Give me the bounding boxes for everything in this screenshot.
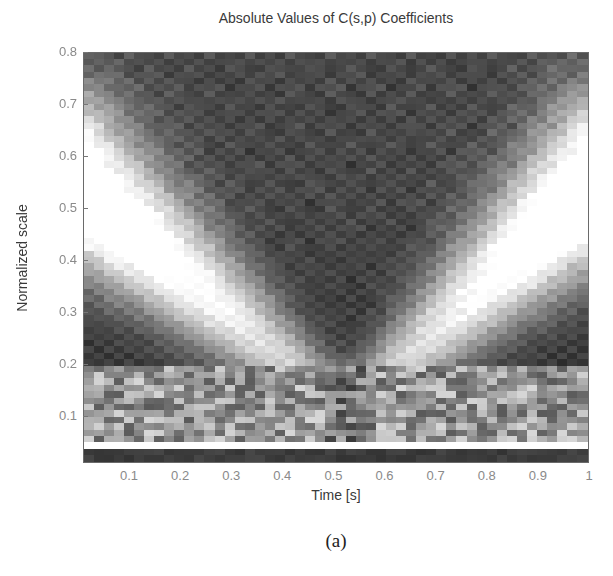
- x-tick-label: 0.4: [267, 468, 297, 483]
- y-tick-mark: [83, 104, 88, 105]
- y-tick-label: 0.7: [41, 96, 77, 111]
- y-tick-mark: [83, 52, 88, 53]
- scalogram-heatmap: [84, 53, 588, 462]
- x-tick-label: 0.7: [421, 468, 451, 483]
- y-tick-label: 0.2: [41, 356, 77, 371]
- y-tick-mark: [83, 416, 88, 417]
- y-tick-label: 0.5: [41, 200, 77, 215]
- x-axis-label: Time [s]: [83, 487, 589, 503]
- x-tick-label: 0.3: [216, 468, 246, 483]
- y-tick-mark: [83, 260, 88, 261]
- y-tick-mark: [83, 208, 88, 209]
- heatmap-plot-area: [83, 52, 589, 463]
- x-tick-label: 0.6: [370, 468, 400, 483]
- y-tick-label: 0.6: [41, 148, 77, 163]
- y-tick-mark: [83, 312, 88, 313]
- x-tick-label: 0.2: [165, 468, 195, 483]
- y-tick-label: 0.3: [41, 304, 77, 319]
- x-tick-label: 0.9: [523, 468, 553, 483]
- figure-caption: (a): [83, 530, 589, 552]
- x-tick-label: 1: [574, 468, 604, 483]
- x-tick-label: 0.1: [114, 468, 144, 483]
- y-axis-label: Normalized scale: [14, 204, 30, 311]
- x-tick-label: 0.5: [318, 468, 348, 483]
- y-tick-label: 0.8: [41, 44, 77, 59]
- y-tick-mark: [83, 364, 88, 365]
- y-tick-mark: [83, 156, 88, 157]
- x-tick-label: 0.8: [472, 468, 502, 483]
- y-tick-label: 0.1: [41, 408, 77, 423]
- chart-title: Absolute Values of C(s,p) Coefficients: [83, 10, 589, 26]
- y-tick-label: 0.4: [41, 252, 77, 267]
